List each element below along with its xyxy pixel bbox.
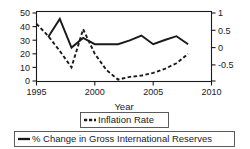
left-tick-label-50: 50	[20, 8, 30, 18]
dual-axis-line-chart: 50 40 30 20 10 0 1 0.5 0 -0.5	[0, 0, 250, 149]
series-line-reserves	[48, 19, 188, 48]
plot-frame	[37, 12, 212, 82]
right-tick-label-0: 0	[218, 43, 223, 53]
x-tick-label-2005: 2005	[143, 87, 163, 97]
x-axis-tick-labels: 1995 2000 2005 2010	[26, 87, 221, 97]
right-axis-ticks	[212, 13, 216, 81]
left-tick-label-40: 40	[20, 22, 30, 32]
left-tick-label-20: 20	[20, 49, 30, 59]
left-tick-label-0: 0	[25, 76, 30, 86]
right-axis-tick-labels: 1 0.5 0 -0.5	[218, 8, 234, 70]
legend-label-reserves: % Change in Gross International Reserves	[32, 133, 212, 144]
right-tick-label-neg-0-5: -0.5	[218, 60, 234, 70]
legend-label-inflation-rate: Inflation Rate	[98, 114, 154, 125]
x-tick-label-2010: 2010	[201, 87, 221, 97]
left-tick-label-10: 10	[20, 63, 30, 73]
right-tick-label-1: 1	[218, 8, 223, 18]
right-tick-label-0-5: 0.5	[218, 26, 231, 36]
left-tick-label-30: 30	[20, 36, 30, 46]
chart-figure: 50 40 30 20 10 0 1 0.5 0 -0.5	[0, 0, 250, 149]
left-axis-tick-labels: 50 40 30 20 10 0	[20, 8, 30, 86]
legend-reserves[interactable]: % Change in Gross International Reserves	[15, 132, 235, 147]
x-axis-title: Year	[114, 101, 133, 112]
legend-inflation-rate[interactable]: Inflation Rate	[81, 113, 169, 128]
series-line-inflation	[37, 24, 189, 80]
left-axis-ticks	[33, 13, 37, 81]
x-axis-ticks	[37, 82, 212, 86]
x-tick-label-1995: 1995	[26, 87, 46, 97]
x-tick-label-2000: 2000	[85, 87, 105, 97]
